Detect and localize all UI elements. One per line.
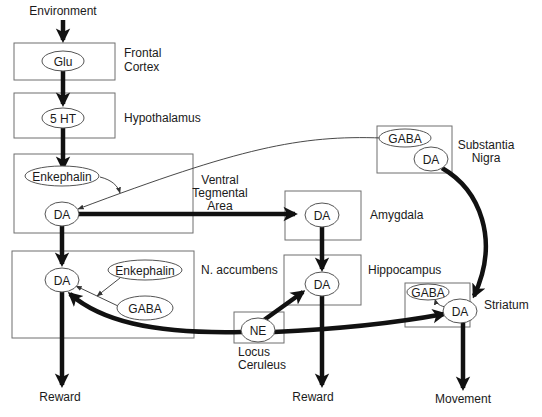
node-substantia-nigra-gaba: GABA	[379, 129, 431, 147]
svg-text:Enkephalin: Enkephalin	[115, 264, 174, 278]
vta-box	[14, 154, 193, 233]
svg-text:DA: DA	[314, 278, 331, 292]
hypothalamus-label: Hypothalamus	[124, 111, 201, 125]
reward-output-label-1: Reward	[39, 390, 80, 404]
svg-text:DA: DA	[423, 153, 440, 167]
frontal-cortex-label-1: Frontal	[124, 46, 161, 60]
frontal-cortex-label-2: Cortex	[124, 60, 159, 74]
node-striatum-da: DA	[443, 299, 477, 323]
node-locus-ceruleus-ne: NE	[241, 318, 275, 342]
movement-output-label: Movement	[435, 392, 492, 406]
substantia-nigra-label-1: Substantia	[458, 138, 515, 152]
n-accumbens-label: N. accumbens	[201, 263, 278, 277]
svg-text:5 HT: 5 HT	[50, 112, 77, 126]
diagram-canvas: Glu 5 HT Enkephalin DA DA Enkephalin GAB…	[0, 0, 542, 417]
vta-label-1: Ventral	[201, 173, 238, 187]
locus-ceruleus-label-2: Ceruleus	[238, 358, 286, 372]
node-vta-enkephalin: Enkephalin	[25, 166, 99, 186]
node-vta-da: DA	[45, 202, 79, 226]
node-nacc-da: DA	[45, 268, 79, 292]
node-striatum-gaba: GABA	[407, 284, 449, 300]
node-amygdala-da: DA	[305, 203, 339, 227]
svg-text:DA: DA	[452, 305, 469, 319]
edge-vta-enkephalin-to-da	[100, 177, 120, 193]
svg-text:Glu: Glu	[54, 55, 73, 69]
node-hypothalamus-5ht: 5 HT	[42, 108, 84, 128]
hippocampus-label: Hippocampus	[368, 263, 441, 277]
edge-ne-to-striatum-da	[274, 314, 444, 332]
svg-text:DA: DA	[54, 274, 71, 288]
striatum-label: Striatum	[484, 298, 529, 312]
amygdala-label: Amygdala	[370, 208, 424, 222]
svg-text:GABA: GABA	[128, 302, 161, 316]
svg-text:NE: NE	[250, 324, 267, 338]
svg-text:DA: DA	[54, 208, 71, 222]
edge-nacc-enkephalin-to-gaba-path	[97, 278, 120, 296]
vta-label-2: Tegmental	[192, 186, 247, 200]
svg-text:DA: DA	[314, 209, 331, 223]
vta-label-3: Area	[207, 199, 233, 213]
node-nacc-gaba: GABA	[117, 296, 173, 320]
locus-ceruleus-label-1: Locus	[238, 345, 270, 359]
node-hippocampus-da: DA	[305, 272, 339, 296]
substantia-nigra-label-2: Nigra	[472, 151, 501, 165]
node-frontal-cortex-glu: Glu	[42, 51, 84, 71]
svg-text:Enkephalin: Enkephalin	[32, 170, 91, 184]
svg-text:GABA: GABA	[388, 132, 421, 146]
reward-output-label-2: Reward	[292, 390, 333, 404]
node-nacc-enkephalin: Enkephalin	[108, 260, 182, 280]
edge-sn-da-to-striatum-da	[442, 168, 486, 296]
svg-text:GABA: GABA	[411, 286, 444, 300]
environment-label: Environment	[29, 4, 97, 18]
brain-pathway-diagram: Glu 5 HT Enkephalin DA DA Enkephalin GAB…	[0, 0, 542, 417]
node-substantia-nigra-da: DA	[414, 147, 448, 171]
